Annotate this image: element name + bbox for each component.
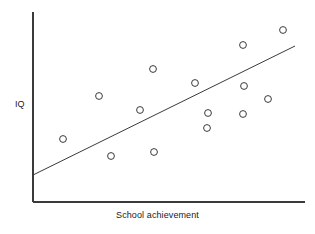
plot-canvas	[0, 0, 315, 234]
data-point	[280, 27, 287, 34]
data-point	[96, 93, 103, 100]
data-point	[240, 111, 247, 118]
data-points-group	[60, 27, 287, 160]
axes-group	[33, 12, 305, 202]
data-point	[205, 110, 212, 117]
data-point	[150, 66, 157, 73]
data-point	[240, 42, 247, 49]
data-point	[137, 107, 144, 114]
data-point	[151, 149, 158, 156]
trendline-group	[33, 46, 295, 175]
data-point	[265, 96, 272, 103]
scatter-plot-figure: IQ School achievement	[0, 0, 315, 234]
data-point	[192, 80, 199, 87]
data-point	[241, 83, 248, 90]
x-axis-label: School achievement	[0, 210, 315, 220]
data-point	[108, 153, 115, 160]
data-point	[204, 125, 211, 132]
data-point	[60, 136, 67, 143]
y-axis-label: IQ	[15, 99, 25, 109]
regression-trendline	[33, 46, 295, 175]
